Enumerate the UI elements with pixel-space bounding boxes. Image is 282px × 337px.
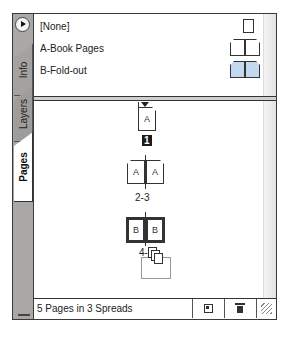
page-number-label: 1 — [142, 135, 152, 146]
panel-footer: 5 Pages in 3 Spreads — [34, 298, 276, 319]
page-thumb[interactable]: B — [126, 217, 146, 243]
spread-icon — [230, 39, 260, 56]
master-name: B-Fold-out — [40, 65, 87, 76]
status-text: 5 Pages in 3 Spreads — [37, 303, 133, 314]
single-page-icon — [243, 19, 254, 33]
tab-column: Info Layers Pages — [13, 14, 34, 319]
master-name: A-Book Pages — [40, 43, 104, 54]
flyout-menu-icon[interactable] — [15, 17, 30, 32]
scrollbar[interactable] — [263, 14, 276, 301]
resize-grip-icon — [261, 303, 272, 314]
new-page-icon — [204, 304, 213, 313]
tab-pages-label: Pages — [18, 152, 29, 181]
tab-layers-label: Layers — [18, 99, 29, 129]
master-item-a-book-pages[interactable]: A-Book Pages — [40, 40, 264, 58]
new-page-button[interactable] — [192, 299, 224, 318]
page-thumb[interactable]: A — [138, 107, 156, 131]
spine — [138, 102, 139, 107]
delete-page-button[interactable] — [224, 299, 256, 318]
spine — [145, 155, 146, 189]
resize-grip[interactable] — [256, 299, 276, 318]
spread-start-marker-icon — [141, 102, 149, 107]
drag-pages-icon — [154, 253, 163, 264]
master-item-none[interactable]: [None] — [40, 18, 264, 36]
page-thumb[interactable]: A — [127, 160, 145, 184]
page-thumb[interactable]: A — [146, 160, 164, 184]
master-name: [None] — [40, 21, 69, 32]
master-item-b-fold-out[interactable]: B-Fold-out — [40, 62, 264, 80]
spread-label: 2-3 — [135, 192, 149, 203]
pages-area: A 1 A A 2-3 B B 4-5 — [34, 100, 264, 299]
trash-icon — [236, 303, 244, 313]
pages-panel: Info Layers Pages [None] A-Book Pages B-… — [12, 13, 277, 320]
tab-column-grip — [18, 314, 30, 316]
spread-highlighted-icon — [230, 61, 260, 78]
page-thumb[interactable]: B — [145, 217, 165, 243]
tab-info-label: Info — [18, 62, 29, 79]
tab-pages[interactable]: Pages — [14, 132, 33, 202]
masters-list: [None] A-Book Pages B-Fold-out — [34, 14, 264, 96]
